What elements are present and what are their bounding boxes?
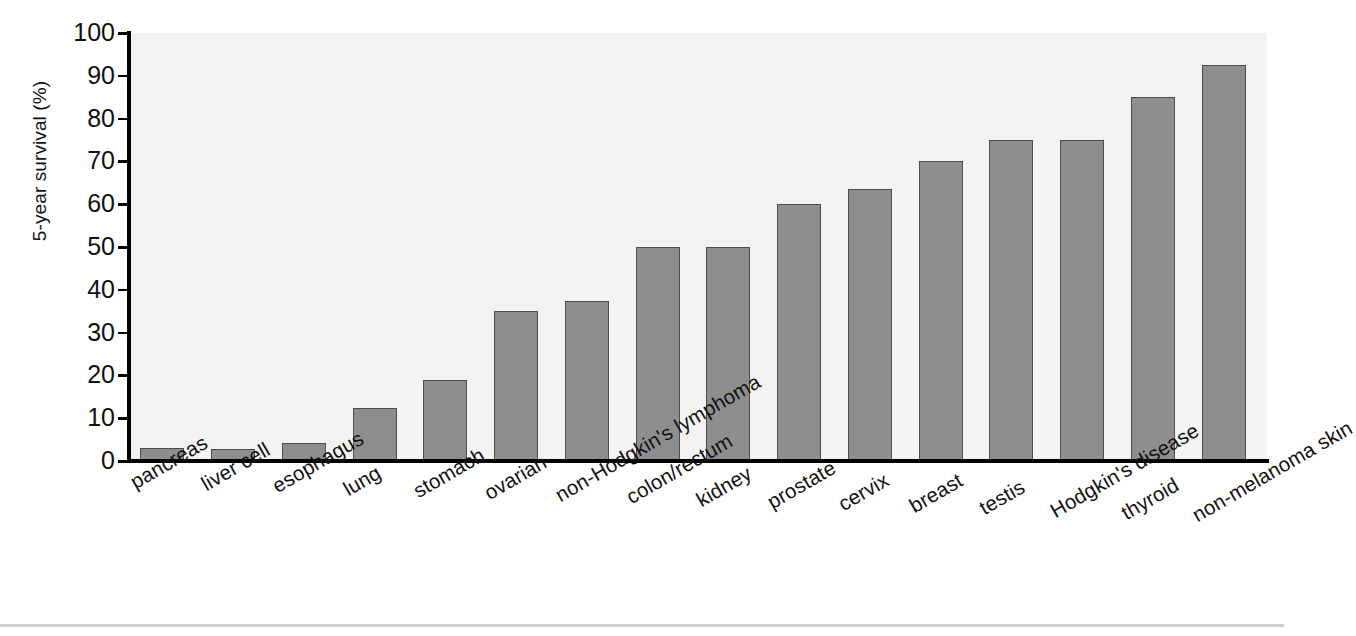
y-axis-tick-label: 50 [87,232,115,260]
bar [1202,65,1246,461]
y-axis-tick-label: 60 [87,189,115,217]
bar [706,247,750,461]
bar [565,301,609,462]
y-axis-tick-label: 30 [87,318,115,346]
bar [919,161,963,461]
bar [777,204,821,461]
y-axis: 0102030405060708090100 [0,0,131,480]
x-axis-tick-label: lung [339,460,385,500]
bar [989,140,1033,461]
x-axis-tick-label: prostate [763,455,840,513]
bar [494,311,538,461]
bar [423,380,467,461]
y-axis-tick-label: 40 [87,275,115,303]
figure-bottom-rule [0,624,1284,627]
y-axis-tick-label: 70 [87,146,115,174]
x-axis-labels: pancreasliver cellesophaguslungstomachov… [0,463,1284,636]
y-axis-tick-label: 90 [87,61,115,89]
y-axis-tick-label: 80 [87,104,115,132]
bar [848,189,892,461]
y-axis-tick-label: 20 [87,360,115,388]
x-axis-tick-label: cervix [834,468,893,516]
y-axis-tick-label: 10 [87,403,115,431]
y-axis-line [127,31,131,463]
bar [1060,140,1104,461]
bar [1131,97,1175,461]
y-axis-tick-label: 100 [73,18,115,46]
x-axis-tick-label: breast [905,468,967,518]
x-axis-tick-label: testis [975,475,1029,520]
plot-area [131,33,1267,461]
